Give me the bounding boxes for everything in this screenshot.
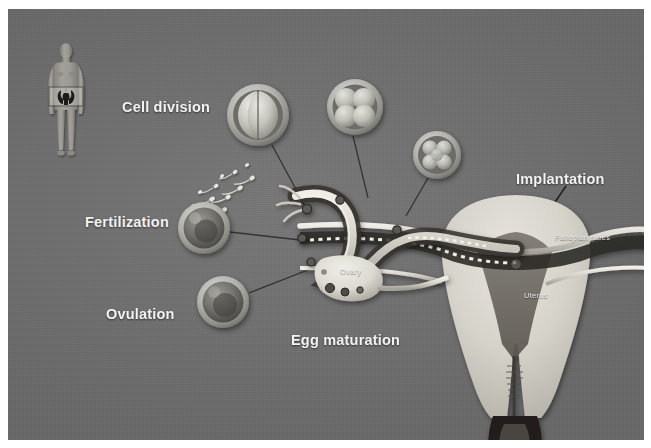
embryo-in-tube-5 xyxy=(393,226,401,234)
embryo-in-tube-1 xyxy=(302,204,311,213)
label-fertilization: Fertilization xyxy=(85,214,169,230)
leader-line-fertilization xyxy=(230,232,300,240)
leader-line-four-cell xyxy=(353,136,368,198)
label-cell-division: Cell division xyxy=(122,99,210,115)
stage-ovulation xyxy=(197,276,249,328)
stage-fertilization xyxy=(178,202,230,254)
embryo-in-tube-2 xyxy=(336,196,344,204)
ovarian-ligament xyxy=(380,278,446,289)
implanted-blastocyst xyxy=(511,259,522,270)
embryo-in-tube-3 xyxy=(298,234,306,242)
stage-four-cell xyxy=(327,79,383,135)
leader-line-morula xyxy=(406,178,428,216)
label-ovary: Ovary xyxy=(340,267,362,276)
female-body-figure xyxy=(48,43,84,155)
label-fallopian-tubes: Fallopian tubes xyxy=(555,233,610,242)
label-implantation: Implantation xyxy=(516,171,605,187)
label-ovulation: Ovulation xyxy=(106,306,175,322)
vaginal-lumen xyxy=(499,424,530,448)
stage-two-cell xyxy=(227,84,289,146)
label-egg-maturation: Egg maturation xyxy=(291,332,400,348)
label-uterus: Uterus xyxy=(524,291,548,300)
illustration-root: Cell division Fertilization Ovulation Eg… xyxy=(0,0,651,448)
leader-line-ovulation xyxy=(249,266,318,293)
stage-morula xyxy=(413,131,461,179)
embryo-in-tube-4 xyxy=(307,258,315,266)
